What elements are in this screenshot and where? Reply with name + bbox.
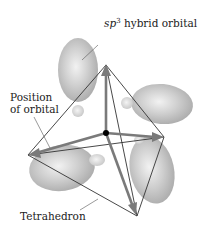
position-of-orbital-label: Position of orbital <box>10 91 70 115</box>
orbital-right <box>121 81 195 126</box>
sp3-orbital-diagram: sp3 hybrid orbital Position of orbital T… <box>0 0 203 230</box>
diagram-graphic <box>0 0 203 230</box>
orbital-bottom-right <box>123 132 180 208</box>
nucleus-dot <box>103 130 109 136</box>
tetrahedron-label: Tetrahedron <box>20 210 86 222</box>
sp3-hybrid-orbital-label: sp3 hybrid orbital <box>104 17 197 29</box>
